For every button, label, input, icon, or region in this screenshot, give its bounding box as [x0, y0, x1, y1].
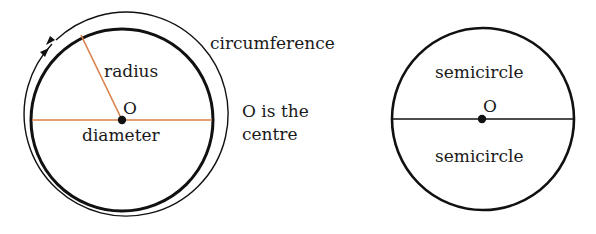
arrowhead-icon [40, 48, 49, 57]
bottom-semicircle-label: semicircle [435, 146, 523, 166]
circumference-label: circumference [210, 33, 335, 53]
top-semicircle-label: semicircle [435, 62, 523, 82]
arrowhead-icon [46, 36, 55, 45]
right-circle-diagram: semicircle O semicircle [392, 28, 574, 210]
diameter-label: diameter [82, 125, 161, 145]
circle-parts-diagram: radius O diameter circumference O is the… [0, 0, 596, 234]
centre-label: O [483, 96, 497, 116]
radius-label: radius [104, 61, 158, 81]
centre-note-line2: centre [242, 124, 298, 144]
left-circle-diagram: radius O diameter circumference O is the… [24, 12, 335, 216]
centre-note-line1: O is the [242, 101, 309, 121]
centre-point [478, 115, 486, 123]
centre-label: O [123, 98, 137, 118]
